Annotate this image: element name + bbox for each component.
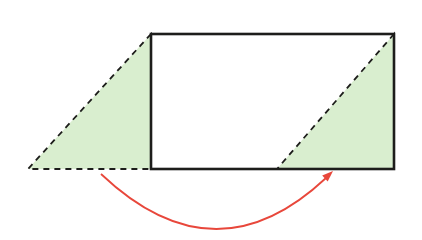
arrow-arc [101, 174, 326, 229]
left-dashed-triangle [28, 34, 151, 169]
translation-arrow [101, 171, 333, 229]
right-dashed-triangle [277, 34, 394, 169]
geometry-diagram [0, 0, 422, 240]
diagram-canvas [0, 0, 422, 240]
